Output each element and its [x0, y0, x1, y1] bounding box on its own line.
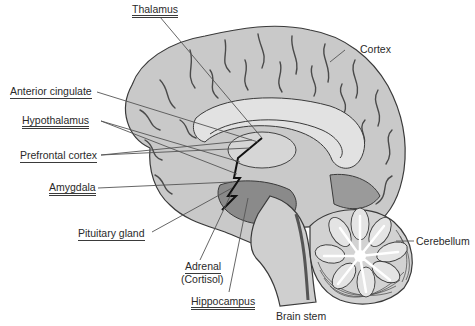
label-thalamus: Thalamus: [132, 3, 178, 18]
label-anterior-cingulate: Anterior cingulate: [10, 85, 92, 99]
label-hypothalamus: Hypothalamus: [22, 114, 89, 129]
label-adrenal: Adrenal: [185, 260, 221, 274]
brain-diagram: Thalamus Cortex Anterior cingulate Hypot…: [0, 0, 475, 326]
label-hippocampus: Hippocampus: [191, 295, 255, 310]
brain-illustration: [0, 0, 475, 326]
label-amygdala: Amygdala: [49, 181, 96, 196]
label-cortex: Cortex: [360, 43, 391, 55]
cerebellum: [310, 208, 412, 304]
label-brain-stem: Brain stem: [276, 310, 326, 322]
label-cerebellum: Cerebellum: [416, 235, 470, 247]
label-pituitary-gland: Pituitary gland: [78, 227, 145, 241]
label-prefrontal-cortex: Prefrontal cortex: [20, 149, 97, 163]
label-adrenal-cortisol: (Cortisol): [181, 273, 224, 285]
